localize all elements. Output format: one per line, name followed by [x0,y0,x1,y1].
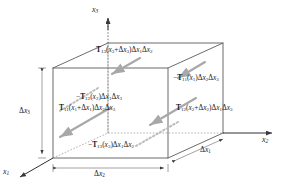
x3-axis-label: x3 [92,6,98,14]
axis-lines [20,18,272,177]
x2-axis-label: x2 [262,136,268,144]
diagram-vector-layer [0,0,281,190]
stress-front-face-label: T11(x1+Δx1)Δx2Δx3 [59,104,115,112]
stress-right-face-label: T12(x2+Δx2)Δx1Δx3 [176,104,233,112]
arrow-bottom-face [136,122,178,146]
stress-top-face-label: T13(x3+Δx3)Δx1Δx2 [96,46,153,54]
delta-x3-label: Δx3 [19,107,30,115]
x1-axis-label: x1 [3,168,9,176]
stress-back-right-face-label: −T11(x1)Δx2Δx3 [173,74,219,82]
dimension-bars [38,68,223,172]
delta-x2-label: Δx2 [94,170,105,178]
arrow-front-face [60,108,110,137]
delta-x1-label: Δx1 [200,146,211,154]
stress-left-face-label: −T12(x2)Δx1Δx3 [76,93,122,101]
x1-axis-line [20,158,53,177]
arrow-top-face [112,58,140,74]
stress-bottom-face-label: −T13(x3)Δx1Δx2 [88,141,134,149]
figure-canvas: x3 x2 x1 Δx3 Δx2 Δx1 T13(x3+Δx3)Δx1Δx2 −… [0,0,281,190]
